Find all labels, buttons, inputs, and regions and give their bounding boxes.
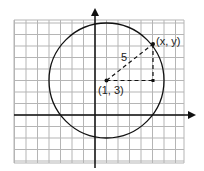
label-point: (x, y) (156, 35, 180, 47)
label-center: (1, 3) (98, 84, 124, 96)
circle-point (151, 42, 155, 46)
center-point (105, 79, 109, 83)
corner-point (152, 79, 155, 82)
label-radius: 5 (121, 51, 127, 63)
coordinate-plane-diagram: (1, 3) (x, y) 5 (0, 0, 204, 171)
